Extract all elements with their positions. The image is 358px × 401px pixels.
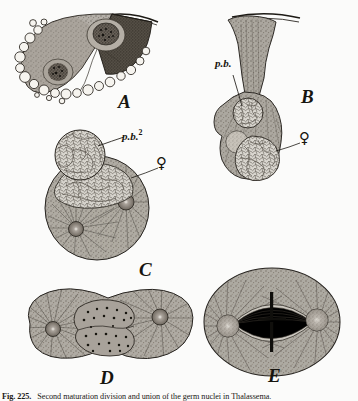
chromosome-bar-upper xyxy=(270,292,273,318)
figure-number: Fig. 225. xyxy=(2,392,31,401)
figure-caption: Fig. 225. Fig. 225.—Second maturation di… xyxy=(2,392,356,401)
centrosome-d-right xyxy=(152,309,168,325)
female-pronucleus-b xyxy=(235,136,279,181)
polar-body-label-b: p.b. xyxy=(215,58,232,69)
centrosome-d-left xyxy=(46,322,61,337)
polar-body-label-b-text: p.b. xyxy=(215,57,232,69)
panel-c-drawing xyxy=(40,130,160,270)
second-polar-body-label-c: p.b.2 xyxy=(122,129,142,142)
second-polar-body-label-c-text: p.b. xyxy=(122,130,139,142)
pointer-line-pb2-c xyxy=(98,137,124,146)
chromosome-bar-lower xyxy=(270,322,273,352)
figure-plate: A B C D E p.b. p.b.2 ♀ ♀ Fig. 225. Fig. … xyxy=(0,0,358,401)
plate-drawing xyxy=(0,0,358,401)
panel-letter-b: B xyxy=(301,87,314,106)
female-symbol-b: ♀ xyxy=(299,131,310,146)
caption-visible-text: Second maturation division and union of … xyxy=(33,392,271,401)
equatorial-plate-e xyxy=(258,318,286,320)
panel-b-drawing xyxy=(205,10,300,190)
panel-letter-a: A xyxy=(118,92,131,111)
second-polar-body-superscript: 2 xyxy=(139,128,143,137)
panel-letter-d: D xyxy=(100,368,114,387)
female-symbol-c: ♀ xyxy=(156,156,167,171)
centrosome-c-left xyxy=(69,222,84,237)
panel-letter-c: C xyxy=(139,260,152,279)
panel-d-drawing xyxy=(20,282,200,364)
panel-letter-e: E xyxy=(268,366,281,385)
panel-e-drawing xyxy=(200,266,348,380)
panel-a-drawing xyxy=(10,8,170,108)
